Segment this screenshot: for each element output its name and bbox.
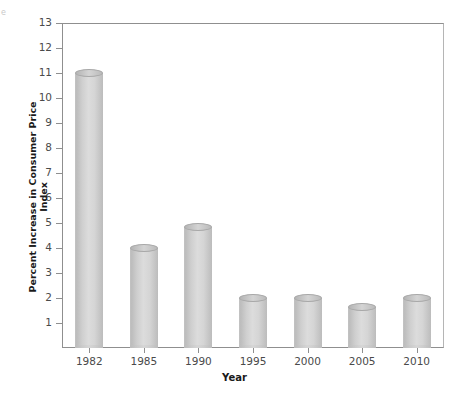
bar-1990 [184,227,212,348]
bar-body [294,298,322,348]
x-axis-tick [362,348,363,353]
y-axis-tick-label: 1 [28,317,52,328]
bar-body [403,298,431,348]
x-axis-tick-label: 2010 [387,355,447,367]
y-axis-tick-label: 11 [28,67,52,78]
bar-body [348,307,376,348]
x-axis-tick [308,348,309,353]
x-axis-tick [198,348,199,353]
x-axis-tick [417,348,418,353]
bar-top-cap [184,223,212,231]
corner-mark-glyph: e [1,8,8,17]
x-axis-tick-label: 1985 [114,355,174,367]
bar-top-cap [348,303,376,311]
bar-body [184,227,212,348]
x-axis-tick [144,348,145,353]
bar-1995 [239,298,267,348]
bar-body [130,248,158,348]
x-axis-tick-label: 2005 [332,355,392,367]
bar-2010 [403,298,431,348]
y-axis-tick-label: 12 [28,42,52,53]
bar-top-cap [130,244,158,252]
bar-2005 [348,307,376,348]
bar-top-cap [403,294,431,302]
x-axis-tick [89,348,90,353]
x-axis-tick-label: 1982 [59,355,119,367]
x-axis-tick-label: 2000 [278,355,338,367]
bar-body [239,298,267,348]
x-axis-tick-label: 1995 [223,355,283,367]
y-axis-tick-label: 13 [28,17,52,28]
y-axis-title: Percent Increase in Consumer Price Index [27,97,49,297]
x-axis-tick-label: 1990 [168,355,228,367]
chart-figure: e 12345678910111213 Percent Increase in … [0,0,469,396]
bar-1985 [130,248,158,348]
bar-1982 [75,73,103,348]
bar-top-cap [294,294,322,302]
bar-top-cap [239,294,267,302]
x-axis-tick [253,348,254,353]
x-axis-title: Year [0,372,469,383]
bar-2000 [294,298,322,348]
bar-body [75,73,103,348]
